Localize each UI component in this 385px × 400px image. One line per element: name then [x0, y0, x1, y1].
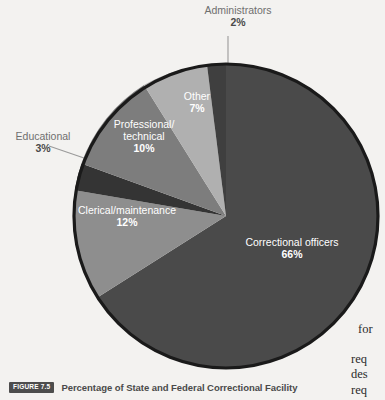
figure-page: Administrators 2% Other 7% Professional/… [0, 0, 385, 400]
pie-chart-svg [0, 0, 385, 372]
body-text-line-2: req [351, 352, 385, 368]
pie-chart: Administrators 2% Other 7% Professional/… [0, 0, 385, 372]
body-text-gap [351, 338, 385, 352]
figure-caption-row: FIGURE 7.5 Percentage of State and Feder… [0, 376, 385, 398]
figure-number-badge: FIGURE 7.5 [9, 382, 54, 393]
figure-caption-text: Percentage of State and Federal Correcti… [61, 382, 297, 393]
educational-leader-line [49, 146, 84, 158]
body-text-line-1: for [351, 322, 385, 338]
